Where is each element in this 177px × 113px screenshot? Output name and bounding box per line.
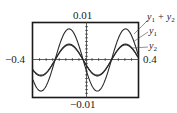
leader-line-y2 xyxy=(132,47,148,48)
legend-y1-label: y1 xyxy=(149,26,157,38)
sum-plus-text: + y xyxy=(155,11,171,22)
y1-sub: 1 xyxy=(153,30,157,38)
ymax-label: 0.01 xyxy=(73,10,92,21)
legend-y2-label: y2 xyxy=(149,41,157,53)
ymin-label: −0.01 xyxy=(70,99,95,110)
y2-sub: 2 xyxy=(153,45,157,53)
legend-sum-label: y1 + y2 xyxy=(147,12,175,24)
sum-sub2: 2 xyxy=(171,16,175,24)
xmin-label: −0.4 xyxy=(5,54,25,65)
xmax-label: 0.4 xyxy=(143,54,157,65)
leader-line-y1 xyxy=(133,32,148,42)
